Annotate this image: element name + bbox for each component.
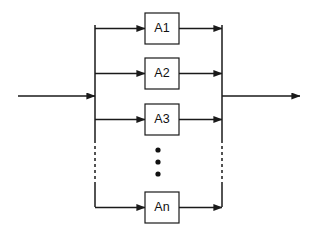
block-label-a1: A1: [154, 21, 170, 35]
block-an[interactable]: An: [145, 192, 179, 223]
block-group: A1A2A3An: [145, 13, 179, 223]
block-label-an: An: [154, 200, 170, 214]
ellipsis-dot-3: [155, 171, 160, 176]
block-a3[interactable]: A3: [145, 104, 179, 135]
ellipsis-dot-2: [155, 159, 160, 164]
parallel-block-diagram: A1A2A3An: [0, 0, 313, 236]
block-a2[interactable]: A2: [145, 58, 179, 89]
block-label-a3: A3: [154, 112, 170, 126]
ellipsis-dot-1: [155, 147, 160, 152]
block-a1[interactable]: A1: [145, 13, 179, 44]
diagram-canvas: A1A2A3An: [0, 0, 313, 236]
vertical-ellipsis-icon: [155, 147, 160, 176]
block-label-a2: A2: [154, 66, 170, 80]
